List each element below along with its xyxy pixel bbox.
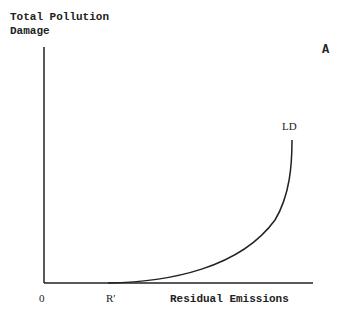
origin-label: 0 [39,292,45,304]
curve-label-ld: LD [282,120,297,132]
ld-curve [108,140,292,283]
threshold-label-r-prime: R′ [106,292,116,304]
chart-plot [0,0,347,323]
x-axis-label: Residual Emissions [170,293,289,306]
